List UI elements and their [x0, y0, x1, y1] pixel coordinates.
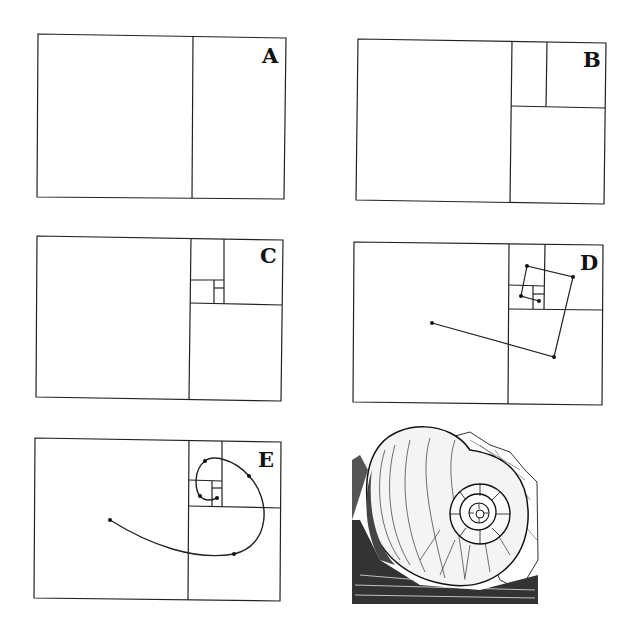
panel-e: [34, 438, 281, 601]
golden-ratio-figure: A B C D E: [0, 0, 642, 636]
panel-label-e: E: [258, 447, 274, 472]
panel-label-d: D: [580, 250, 598, 275]
panel-label-b: B: [583, 47, 601, 72]
panel-c: [36, 236, 283, 401]
nautilus-shell-illustration: [352, 427, 538, 604]
panel-b: [356, 39, 606, 204]
panel-d: [353, 242, 603, 405]
spiral-polyline: [432, 266, 573, 357]
panel-label-a: A: [261, 43, 279, 68]
panel-label-c: C: [260, 243, 277, 268]
panel-a: [37, 34, 286, 199]
